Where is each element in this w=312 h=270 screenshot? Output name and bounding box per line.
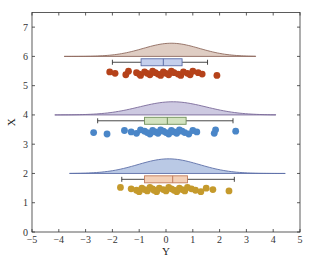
x-tick-label: −2 <box>107 234 118 245</box>
x-axis-label: Y <box>162 245 170 257</box>
data-point <box>90 129 97 136</box>
y-tick-label: 1 <box>23 197 28 208</box>
x-tick-label: −1 <box>134 234 145 245</box>
x-tick-label: −4 <box>53 234 64 245</box>
y-tick-label: 7 <box>23 22 28 33</box>
x-tick-label: 1 <box>190 234 195 245</box>
y-tick-label: 0 <box>23 227 28 238</box>
iqr-box <box>145 176 188 183</box>
data-point <box>112 70 119 77</box>
data-point <box>203 185 210 192</box>
x-tick-label: −5 <box>27 234 38 245</box>
y-tick-label: 3 <box>23 139 28 150</box>
data-point <box>226 188 233 195</box>
data-point <box>212 126 219 133</box>
y-axis-label: X <box>5 118 17 126</box>
data-point <box>117 184 124 191</box>
y-tick-label: 5 <box>23 80 28 91</box>
data-point <box>199 71 206 78</box>
data-point <box>121 127 128 134</box>
data-point <box>214 72 221 79</box>
data-point <box>104 131 111 138</box>
x-tick-label: 3 <box>244 234 249 245</box>
data-point <box>125 68 132 75</box>
x-tick-label: 0 <box>164 234 169 245</box>
x-tick-label: 5 <box>298 234 303 245</box>
iqr-box <box>141 59 182 66</box>
data-point <box>232 128 239 135</box>
x-tick-label: 2 <box>217 234 222 245</box>
y-tick-label: 2 <box>23 168 28 179</box>
x-tick-label: −3 <box>80 234 91 245</box>
raincloud-chart: −5−4−3−2−101234501234567 Y X <box>0 0 312 270</box>
data-point <box>210 186 217 193</box>
x-tick-label: 4 <box>271 234 276 245</box>
data-point <box>193 129 200 136</box>
y-tick-label: 6 <box>23 51 28 62</box>
y-tick-label: 4 <box>23 109 28 120</box>
iqr-box <box>145 117 187 124</box>
